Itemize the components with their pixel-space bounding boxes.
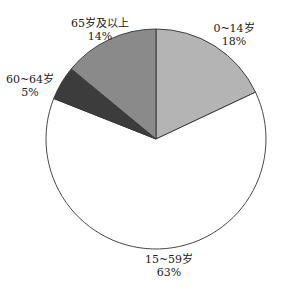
slice-label-60-64: 60~64岁 5% xyxy=(6,73,54,99)
slice-label-name: 60~64岁 xyxy=(6,73,54,86)
slice-label-0-14: 0~14岁 18% xyxy=(213,22,254,48)
slice-label-percent: 5% xyxy=(6,86,54,99)
slice-label-name: 65岁及以上 xyxy=(71,17,129,30)
slice-label-percent: 63% xyxy=(145,266,193,279)
slice-label-percent: 18% xyxy=(213,35,254,48)
slice-label-name: 15~59岁 xyxy=(145,253,193,266)
slice-label-15-59: 15~59岁 63% xyxy=(145,253,193,279)
pie-slices xyxy=(46,29,266,249)
slice-label-65-plus: 65岁及以上 14% xyxy=(71,17,129,43)
slice-label-percent: 14% xyxy=(71,30,129,43)
slice-label-name: 0~14岁 xyxy=(213,22,254,35)
